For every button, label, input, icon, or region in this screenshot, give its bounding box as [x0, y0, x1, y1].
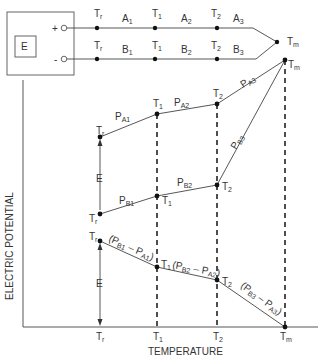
svg-text:T2: T2 [211, 40, 221, 52]
svg-text:T2: T2 [222, 181, 232, 193]
instrument-box [7, 12, 74, 75]
svg-text:Tm: Tm [280, 331, 292, 343]
svg-text:A1: A1 [122, 13, 133, 25]
svg-text:Tr: Tr [89, 213, 98, 225]
junction-tm [275, 40, 279, 44]
svg-text:PB2: PB2 [177, 177, 192, 189]
svg-text:PA2: PA2 [174, 97, 189, 109]
x-axis-label: TEMPERATURE [148, 346, 223, 357]
svg-text:(PB3 – PA3): (PB3 – PA3) [238, 280, 284, 318]
svg-text:T2: T2 [222, 276, 232, 288]
node-a-t1 [153, 26, 157, 30]
svg-text:A3: A3 [233, 13, 244, 25]
emf-label-upper: E [96, 173, 103, 184]
node-a-tr [95, 26, 99, 30]
svg-text:B2: B2 [181, 44, 192, 56]
svg-text:T1: T1 [161, 259, 171, 271]
node-b-t1 [153, 57, 157, 61]
svg-text:PB3: PB3 [228, 132, 246, 151]
emf-label-lower: E [96, 278, 103, 289]
svg-text:Tm: Tm [287, 36, 299, 48]
curve-b [100, 60, 285, 214]
svg-text:Tr: Tr [96, 331, 105, 343]
node-b-t2 [215, 57, 219, 61]
y-axis-label: ELECTRIC POTENTIAL [4, 192, 15, 300]
svg-text:A2: A2 [181, 13, 192, 25]
svg-text:B3: B3 [233, 44, 244, 56]
svg-text:PA1: PA1 [115, 111, 130, 123]
minus-terminal [61, 56, 67, 62]
svg-text:Tr: Tr [94, 8, 103, 20]
svg-text:T1: T1 [153, 98, 163, 110]
svg-text:T1: T1 [152, 40, 162, 52]
svg-text:T1: T1 [152, 8, 162, 20]
circuit: E + - Tr A1 T1 A2 T2 A3 Tr B1 T1 B2 T2 B… [7, 8, 299, 75]
source-label: E [21, 41, 28, 52]
arrow-head-up-lower [98, 243, 103, 250]
thermocouple-diagram: E + - Tr A1 T1 A2 T2 A3 Tr B1 T1 B2 T2 B… [0, 0, 318, 358]
svg-text:PB1: PB1 [119, 195, 134, 207]
minus-terminal-label: - [54, 54, 57, 65]
plus-terminal [61, 25, 67, 31]
svg-text:PA3: PA3 [238, 72, 257, 90]
potential-graph: ELECTRIC POTENTIAL TEMPERATURE E E [4, 58, 318, 357]
svg-text:(PB2 – PA2): (PB2 – PA2) [171, 259, 221, 279]
svg-text:Tm: Tm [288, 59, 300, 71]
svg-text:B1: B1 [122, 44, 133, 56]
svg-text:Tr: Tr [96, 125, 105, 137]
svg-text:T2: T2 [213, 88, 223, 100]
svg-text:T1: T1 [162, 195, 172, 207]
svg-text:Tr: Tr [94, 40, 103, 52]
plus-terminal-label: + [52, 23, 58, 34]
arrow-head-up [98, 139, 103, 146]
curve-a [100, 60, 285, 137]
arrow-head-down [98, 319, 103, 326]
svg-text:T2: T2 [213, 331, 223, 343]
svg-text:(PB1 – PA1): (PB1 – PA1) [107, 233, 156, 264]
svg-text:Tr: Tr [89, 231, 98, 243]
svg-text:T2: T2 [211, 8, 221, 20]
difference-curve [100, 241, 285, 327]
node-a-t2 [215, 26, 219, 30]
svg-text:T1: T1 [153, 331, 163, 343]
node-b-tr [95, 57, 99, 61]
